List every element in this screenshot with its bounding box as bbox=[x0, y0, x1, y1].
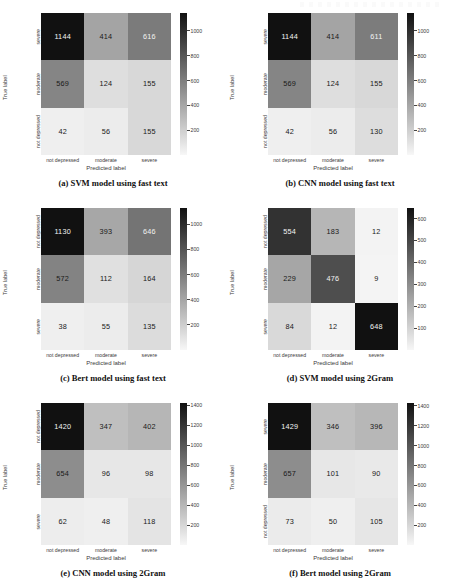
colorbar-ticks: 2004006008001000 bbox=[414, 13, 450, 155]
y-tick-label: moderate bbox=[11, 450, 41, 497]
confusion-matrix-panel-e: True labelnot depressedmoderatesevere142… bbox=[0, 390, 226, 586]
heatmap-cell: 1420 bbox=[41, 403, 84, 450]
heatmap-cell: 155 bbox=[128, 108, 171, 155]
y-tick-label: moderate bbox=[11, 60, 41, 107]
colorbar-tick: 800 bbox=[187, 462, 199, 468]
colorbar-tick: 200 bbox=[414, 303, 426, 309]
colorbar-tick: 1000 bbox=[414, 443, 429, 449]
confusion-matrix-panel-d: True labelnot depressedmoderatesevere554… bbox=[227, 195, 453, 390]
x-axis-title: Predicted label bbox=[41, 165, 171, 171]
colorbar bbox=[180, 403, 187, 545]
colorbar-tick: 800 bbox=[187, 246, 199, 252]
heatmap-cell: 654 bbox=[41, 450, 84, 497]
y-tick-label: moderate bbox=[11, 255, 41, 302]
colorbar-tick: 600 bbox=[414, 482, 426, 488]
panel-caption-a: (a) SVM model using fast text bbox=[0, 178, 226, 188]
colorbar-tick: 400 bbox=[414, 102, 426, 108]
colorbar-tick: 1000 bbox=[187, 221, 202, 227]
heatmap-cell: 124 bbox=[311, 60, 354, 107]
heatmap-cell: 118 bbox=[128, 498, 171, 545]
heatmap-grid: 11303936465721121643855135 bbox=[41, 208, 171, 350]
heatmap-cell: 155 bbox=[355, 60, 398, 107]
y-tick-label: severe bbox=[238, 303, 268, 350]
colorbar-tick: 1200 bbox=[414, 423, 429, 429]
colorbar-tick: 600 bbox=[414, 216, 426, 222]
colorbar-ticks: 200400600800100012001400 bbox=[414, 403, 450, 545]
heatmap-cell: 393 bbox=[84, 208, 127, 255]
colorbar-tick: 200 bbox=[187, 127, 199, 133]
y-tick-label: not depressed bbox=[238, 498, 268, 545]
heatmap-cell: 569 bbox=[41, 60, 84, 107]
heatmap-cell: 1429 bbox=[268, 403, 311, 450]
colorbar bbox=[180, 208, 187, 350]
y-tick-label: severe bbox=[238, 403, 268, 450]
y-tick-label: not depressed bbox=[11, 108, 41, 155]
colorbar-tick: 1400 bbox=[414, 403, 429, 409]
x-axis-title: Predicted label bbox=[268, 555, 398, 561]
heatmap-cell: 56 bbox=[84, 108, 127, 155]
x-axis-title: Predicted label bbox=[268, 165, 398, 171]
y-tick-label: moderate bbox=[238, 60, 268, 107]
panel-caption-d: (d) SVM model using 2Gram bbox=[227, 373, 453, 383]
colorbar bbox=[407, 208, 414, 350]
heatmap-cell: 572 bbox=[41, 255, 84, 302]
heatmap-grid: 142034740265496986248118 bbox=[41, 403, 171, 545]
colorbar-tick: 200 bbox=[414, 127, 426, 133]
heatmap-cell: 48 bbox=[84, 498, 127, 545]
colorbar-tick: 1000 bbox=[187, 442, 202, 448]
y-tick-labels: not depressedmoderatesevere bbox=[11, 208, 41, 350]
heatmap-cell: 50 bbox=[311, 498, 354, 545]
heatmap-cell: 12 bbox=[355, 208, 398, 255]
colorbar-ticks: 100200300400500600 bbox=[414, 208, 450, 350]
y-tick-labels: severemoderatenot depressed bbox=[238, 13, 268, 155]
heatmap-cell: 62 bbox=[41, 498, 84, 545]
colorbar-tick: 1400 bbox=[187, 402, 202, 408]
colorbar-ticks: 200400600800100012001400 bbox=[187, 403, 223, 545]
heatmap-cell: 135 bbox=[128, 303, 171, 350]
heatmap-cell: 476 bbox=[311, 255, 354, 302]
colorbar-tick: 600 bbox=[187, 272, 199, 278]
x-axis-title: Predicted label bbox=[41, 360, 171, 366]
heatmap-cell: 554 bbox=[268, 208, 311, 255]
heatmap-cell: 55 bbox=[84, 303, 127, 350]
colorbar-tick: 600 bbox=[414, 78, 426, 84]
colorbar-tick: 200 bbox=[414, 522, 426, 528]
heatmap-cell: 229 bbox=[268, 255, 311, 302]
heatmap-cell: 38 bbox=[41, 303, 84, 350]
colorbar-tick: 400 bbox=[414, 259, 426, 265]
heatmap-cell: 648 bbox=[355, 303, 398, 350]
heatmap-cell: 56 bbox=[311, 108, 354, 155]
heatmap-cell: 130 bbox=[355, 108, 398, 155]
y-tick-label: not depressed bbox=[238, 108, 268, 155]
panel-caption-e: (e) CNN model using 2Gram bbox=[0, 568, 226, 578]
heatmap-cell: 42 bbox=[41, 108, 84, 155]
y-tick-label: not depressed bbox=[11, 403, 41, 450]
colorbar-tick: 400 bbox=[187, 502, 199, 508]
heatmap-cell: 1144 bbox=[268, 13, 311, 60]
colorbar bbox=[407, 403, 414, 545]
colorbar-tick: 400 bbox=[187, 297, 199, 303]
colorbar-tick: 500 bbox=[414, 237, 426, 243]
confusion-matrix-panel-b: True labelseveremoderatenot depressed114… bbox=[227, 0, 453, 195]
heatmap-cell: 12 bbox=[311, 303, 354, 350]
heatmap-cell: 101 bbox=[311, 450, 354, 497]
colorbar-tick: 400 bbox=[414, 502, 426, 508]
colorbar-tick: 400 bbox=[187, 102, 199, 108]
colorbar-tick: 800 bbox=[187, 53, 199, 59]
colorbar-ticks: 2004006008001000 bbox=[187, 208, 223, 350]
heatmap-cell: 414 bbox=[84, 13, 127, 60]
colorbar-tick: 800 bbox=[414, 53, 426, 59]
heatmap-cell: 9 bbox=[355, 255, 398, 302]
y-tick-labels: not depressedmoderatesevere bbox=[11, 403, 41, 545]
heatmap-cell: 616 bbox=[128, 13, 171, 60]
heatmap-cell: 98 bbox=[128, 450, 171, 497]
confusion-matrix-panel-a: True labelseveremoderatenot depressed114… bbox=[0, 0, 226, 195]
heatmap-grid: 11444146165691241554256155 bbox=[41, 13, 171, 155]
heatmap-cell: 73 bbox=[268, 498, 311, 545]
y-tick-label: moderate bbox=[238, 450, 268, 497]
y-tick-label: severe bbox=[238, 13, 268, 60]
heatmap-cell: 1144 bbox=[41, 13, 84, 60]
y-tick-label: moderate bbox=[238, 255, 268, 302]
heatmap-cell: 96 bbox=[84, 450, 127, 497]
y-tick-label: not depressed bbox=[238, 208, 268, 255]
